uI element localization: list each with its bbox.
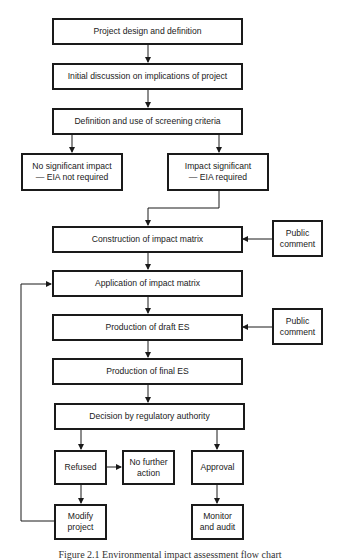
node-label: Definition and use of screening criteria [74,116,220,127]
node-label: Project design and definition [94,26,202,37]
node-label-line1: No significant impact [32,161,111,172]
node-no-significant-impact: No significant impact — EIA not required [21,153,123,191]
node-construction-matrix: Construction of impact matrix [52,226,243,253]
node-decision: Decision by regulatory authority [54,403,245,430]
node-label-line2: — EIA not required [36,172,109,183]
node-label: Application of impact matrix [95,278,200,289]
node-initial-discussion: Initial discussion on implications of pr… [52,63,243,90]
node-label: Refused [64,462,96,473]
node-label-line2: action [137,468,160,479]
node-public-comment-2: Public comment [272,308,323,345]
node-label-line1: Monitor [203,511,232,522]
node-impact-significant: Impact significant — EIA required [167,153,269,191]
node-label-line1: Public [286,228,309,239]
node-label-line2: and audit [200,522,235,533]
node-label: Production of draft ES [105,322,189,333]
node-modify-project: Modify project [54,504,107,540]
node-label-line2: — EIA required [189,172,247,183]
node-label: Approval [201,462,235,473]
node-label-line2: project [68,522,94,533]
node-label: Initial discussion on implications of pr… [68,71,228,82]
node-application-matrix: Application of impact matrix [52,270,243,297]
node-label-line2: comment [280,239,315,250]
node-project-design: Project design and definition [52,18,243,45]
node-monitor-audit: Monitor and audit [191,504,244,540]
node-refused: Refused [54,450,107,485]
node-label-line1: Impact significant [185,161,251,172]
figure-caption: Figure 2.1 Environmental impact assessme… [0,549,340,560]
node-label-line1: No further [129,457,167,468]
node-label-line1: Public [286,316,309,327]
node-label-line2: comment [280,327,315,338]
node-label: Production of final ES [106,366,189,377]
node-label: Decision by regulatory authority [89,411,209,422]
node-label-line1: Modify [68,511,93,522]
node-no-further-action: No further action [122,450,175,485]
node-public-comment-1: Public comment [272,220,323,257]
node-approval: Approval [191,450,244,485]
node-screening-criteria: Definition and use of screening criteria [52,108,243,135]
node-label: Construction of impact matrix [92,234,203,245]
node-final-es: Production of final ES [52,358,243,385]
node-draft-es: Production of draft ES [52,314,243,341]
